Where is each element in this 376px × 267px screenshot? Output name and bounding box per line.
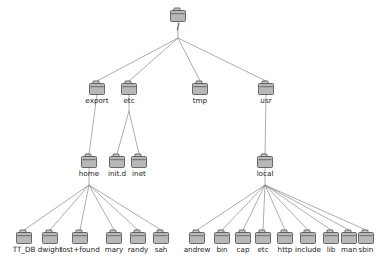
node-label: mary [105, 245, 124, 254]
folder-icon [342, 233, 357, 244]
folder-icon [82, 157, 97, 168]
folder-icon [278, 233, 293, 244]
tree-node-inet[interactable]: inet [132, 154, 147, 178]
folder-icon [131, 233, 146, 244]
tree-node-etc[interactable]: etc [122, 81, 137, 105]
tree-node-include[interactable]: include [295, 230, 322, 254]
node-label: inet [132, 169, 146, 178]
folder-icon [171, 11, 186, 22]
tree-edge [178, 38, 200, 81]
tree-edge [265, 185, 308, 230]
node-label: / [177, 23, 180, 32]
node-label: randy [128, 245, 149, 254]
tree-edge [178, 38, 266, 81]
node-label: man [341, 245, 357, 254]
tree-edge [265, 185, 366, 230]
tree-node-tmp[interactable]: tmp [193, 81, 208, 105]
node-label: lost+found [60, 245, 100, 254]
tree-node-TT_DB[interactable]: TT_DB [12, 230, 36, 254]
tree-node-local[interactable]: local [257, 154, 274, 178]
node-label: etc [123, 96, 134, 105]
node-label: cap [237, 245, 250, 254]
folder-icon [107, 233, 122, 244]
tree-node-init.d[interactable]: init.d [108, 154, 126, 178]
tree-node-export[interactable]: export [85, 81, 108, 105]
folder-icon [90, 84, 105, 95]
tree-node-lost+found[interactable]: lost+found [60, 230, 100, 254]
tree-edge [129, 38, 178, 81]
folder-icon [215, 233, 230, 244]
node-label: local [257, 169, 274, 178]
folder-icon [132, 157, 147, 168]
node-label: init.d [108, 169, 126, 178]
folder-icon [259, 84, 274, 95]
tree-node-mary[interactable]: mary [105, 230, 124, 254]
tree-node-usr[interactable]: usr [259, 81, 274, 105]
node-label: sbin [359, 245, 374, 254]
tree-node-randy[interactable]: randy [128, 230, 149, 254]
node-label: include [295, 245, 322, 254]
folder-icon [236, 233, 251, 244]
tree-node-man[interactable]: man [341, 230, 357, 254]
tree-edge [129, 111, 139, 154]
tree-edge [243, 185, 265, 230]
folder-icon [301, 233, 316, 244]
tree-node-dwight[interactable]: dwight [38, 230, 63, 254]
node-label: usr [260, 96, 271, 105]
tree-node-home[interactable]: home [79, 154, 100, 178]
tree-node-http[interactable]: http [278, 230, 293, 254]
folder-icon [43, 233, 58, 244]
folder-icon [154, 233, 169, 244]
node-label: andrew [184, 245, 211, 254]
node-label: TT_DB [12, 245, 36, 254]
tree-edge [24, 185, 89, 230]
node-label: http [278, 245, 293, 254]
folder-icon [73, 233, 88, 244]
node-label: bin [216, 245, 227, 254]
tree-node-cap[interactable]: cap [236, 230, 251, 254]
tree-edge [50, 185, 89, 230]
tree-edge [222, 185, 265, 230]
tree-node-sbin[interactable]: sbin [359, 230, 374, 254]
folder-icon [258, 157, 273, 168]
tree-node-root[interactable]: / [171, 8, 186, 32]
folder-icon [256, 233, 271, 244]
tree-edge-layer [24, 22, 366, 231]
tree-edge [197, 185, 265, 230]
node-label: lib [327, 245, 336, 254]
tree-edge [265, 185, 349, 230]
directory-tree-diagram: /exportetctmpusrhomeinit.dinetlocalTT_DB… [0, 0, 376, 267]
folder-icon [324, 233, 339, 244]
tree-edge [263, 185, 265, 230]
tree-node-andrew[interactable]: andrew [184, 230, 211, 254]
folder-icon [190, 233, 205, 244]
tree-node-etc2[interactable]: etc [256, 230, 271, 254]
tree-edge [80, 185, 89, 230]
node-label: home [79, 169, 100, 178]
node-label: export [85, 96, 108, 105]
folder-icon [193, 84, 208, 95]
tree-node-bin[interactable]: bin [215, 230, 230, 254]
folder-icon [359, 233, 374, 244]
node-label: tmp [193, 96, 208, 105]
folder-icon [17, 233, 32, 244]
tree-edge [97, 38, 178, 81]
folder-icon [110, 157, 125, 168]
tree-edge [89, 185, 138, 230]
tree-edge [89, 185, 114, 230]
node-label: sah [155, 245, 168, 254]
node-label: dwight [38, 245, 63, 254]
tree-node-lib[interactable]: lib [324, 230, 339, 254]
tree-edge [89, 185, 161, 230]
node-label: etc [257, 245, 268, 254]
folder-icon [122, 84, 137, 95]
tree-edge [117, 111, 129, 154]
tree-node-sah[interactable]: sah [154, 230, 169, 254]
